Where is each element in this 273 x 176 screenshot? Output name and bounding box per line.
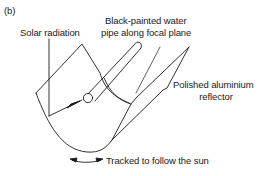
- parabola-curve: [36, 93, 112, 152]
- pipe-end: [83, 93, 92, 102]
- ray-arrow-icon: [67, 101, 80, 108]
- parabolic-trough-diagram: (b) Solar radiation Black-painted water …: [0, 0, 273, 176]
- tracking-arrow-icon: [70, 158, 103, 162]
- focal-pipe: [87, 42, 141, 101]
- inner-rim-curve: [104, 78, 131, 104]
- reflector-label-line1: Polished aluminium: [173, 79, 254, 90]
- solar-radiation-label: Solar radiation: [20, 27, 80, 38]
- reflector-label-line2: reflector: [173, 91, 259, 102]
- tracking-label: Tracked to follow the sun: [106, 155, 209, 166]
- pipe-label-line1: Black-painted water: [105, 15, 187, 26]
- panel-label: (b): [4, 5, 15, 16]
- pipe-label-line2: pipe along focal plane: [101, 27, 191, 38]
